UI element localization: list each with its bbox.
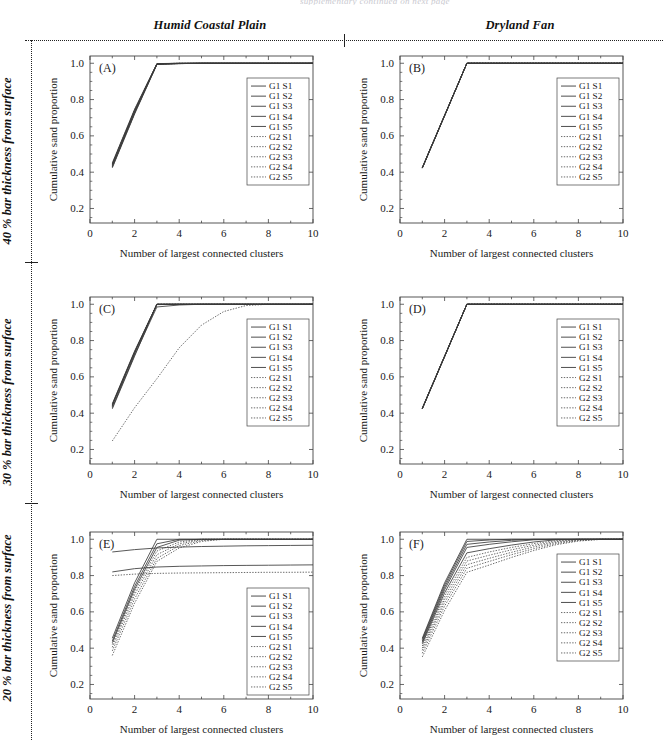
legend-label: G1 S3 <box>269 342 293 352</box>
y-axis-title: Cumulative sand proportion <box>357 77 369 201</box>
x-tick-label: 4 <box>176 227 182 239</box>
legend-label: G2 S2 <box>269 383 293 393</box>
x-tick-label: 10 <box>308 468 320 480</box>
panel-tag: (B) <box>409 61 425 75</box>
legend-label: G1 S3 <box>269 611 293 621</box>
y-axis-title: Cumulative sand proportion <box>357 553 369 677</box>
separator-tick-row-2 <box>25 503 38 504</box>
legend-label: G1 S5 <box>269 632 293 642</box>
legend-label: G1 S4 <box>579 588 603 598</box>
legend-label: G1 S1 <box>269 322 293 332</box>
panel-b: 02468100.20.40.60.81.0Number of largest … <box>356 48 631 263</box>
y-tick-label: 0.6 <box>70 129 84 141</box>
y-tick-label: 0.8 <box>70 569 84 581</box>
y-tick-label: 1.0 <box>70 533 84 545</box>
legend-label: G1 S2 <box>579 91 603 101</box>
legend-label: G2 S3 <box>579 628 603 638</box>
row-label-20-percent: 20 % bar thickness from surface <box>0 493 15 743</box>
y-tick-label: 0.8 <box>380 569 394 581</box>
legend-label: G2 S5 <box>269 413 293 423</box>
x-axis-title: Number of largest connected clusters <box>120 488 284 500</box>
y-tick-label: 1.0 <box>70 57 84 69</box>
legend-label: G2 S3 <box>269 152 293 162</box>
legend-label: G1 S5 <box>579 122 603 132</box>
legend-label: G2 S1 <box>269 642 293 652</box>
x-tick-label: 0 <box>397 227 403 239</box>
legend-label: G1 S1 <box>579 81 603 91</box>
y-tick-label: 0.4 <box>380 642 394 654</box>
x-tick-label: 10 <box>618 468 630 480</box>
panel-tag: (D) <box>409 302 426 316</box>
y-tick-label: 1.0 <box>380 533 394 545</box>
x-tick-label: 4 <box>176 703 182 715</box>
legend-label: G2 S4 <box>579 403 603 413</box>
y-tick-label: 0.2 <box>70 202 84 214</box>
y-tick-label: 1.0 <box>380 298 394 310</box>
x-tick-label: 8 <box>266 468 272 480</box>
x-tick-label: 0 <box>87 703 93 715</box>
legend-label: G1 S1 <box>269 591 293 601</box>
y-axis-title: Cumulative sand proportion <box>47 77 59 201</box>
panel-tag: (A) <box>99 61 116 75</box>
y-axis-title: Cumulative sand proportion <box>47 553 59 677</box>
figure-root: supplementary continued on next page Hum… <box>0 0 663 743</box>
legend-label: G1 S2 <box>269 332 293 342</box>
x-tick-label: 8 <box>576 703 582 715</box>
legend-label: G1 S4 <box>579 353 603 363</box>
series-line <box>112 545 313 552</box>
legend-label: G1 S2 <box>579 567 603 577</box>
x-tick-label: 8 <box>266 227 272 239</box>
y-tick-label: 0.2 <box>380 202 394 214</box>
x-tick-label: 2 <box>442 468 448 480</box>
legend-label: G1 S2 <box>269 91 293 101</box>
y-tick-label: 0.6 <box>380 129 394 141</box>
y-tick-label: 0.6 <box>380 605 394 617</box>
x-tick-label: 2 <box>132 468 138 480</box>
panel-c: 02468100.20.40.60.81.0Number of largest … <box>46 289 321 504</box>
legend-label: G2 S3 <box>269 393 293 403</box>
x-tick-label: 10 <box>308 227 320 239</box>
legend-label: G1 S4 <box>269 112 293 122</box>
panel-tag: (E) <box>99 537 114 551</box>
x-tick-label: 0 <box>87 227 93 239</box>
legend-label: G2 S5 <box>579 648 603 658</box>
x-tick-label: 4 <box>486 468 492 480</box>
legend-label: G2 S1 <box>579 373 603 383</box>
legend: G1 S1G1 S2G1 S3G1 S4G1 S5G2 S1G2 S2G2 S3… <box>247 588 309 695</box>
y-tick-label: 0.4 <box>70 642 84 654</box>
x-tick-label: 0 <box>397 468 403 480</box>
panel-d: 02468100.20.40.60.81.0Number of largest … <box>356 289 631 504</box>
legend-label: G2 S1 <box>269 373 293 383</box>
separator-rule-vertical <box>31 40 32 740</box>
legend-label: G2 S3 <box>579 393 603 403</box>
x-tick-label: 2 <box>132 703 138 715</box>
legend: G1 S1G1 S2G1 S3G1 S4G1 S5G2 S1G2 S2G2 S3… <box>557 319 619 426</box>
y-tick-label: 0.2 <box>380 443 394 455</box>
legend-label: G1 S1 <box>269 81 293 91</box>
y-tick-label: 0.4 <box>380 407 394 419</box>
x-tick-label: 6 <box>531 703 537 715</box>
legend-label: G1 S4 <box>269 353 293 363</box>
legend-label: G1 S3 <box>579 342 603 352</box>
x-tick-label: 10 <box>308 703 320 715</box>
y-tick-label: 0.6 <box>70 370 84 382</box>
y-tick-label: 0.4 <box>70 407 84 419</box>
legend-label: G1 S4 <box>269 622 293 632</box>
panel-e: 02468100.20.40.60.81.0Number of largest … <box>46 524 321 739</box>
x-tick-label: 8 <box>576 227 582 239</box>
column-heading-dryland-fan: Dryland Fan <box>400 18 640 33</box>
x-tick-label: 6 <box>221 227 227 239</box>
x-tick-label: 6 <box>221 468 227 480</box>
legend-label: G2 S5 <box>579 172 603 182</box>
x-tick-label: 6 <box>531 468 537 480</box>
y-tick-label: 1.0 <box>70 298 84 310</box>
legend-label: G2 S4 <box>269 162 293 172</box>
row-label-40-percent: 40 % bar thickness from surface <box>0 36 15 286</box>
separator-tick-row-1 <box>25 262 38 263</box>
legend-label: G2 S5 <box>579 413 603 423</box>
x-axis-title: Number of largest connected clusters <box>120 247 284 259</box>
y-tick-label: 0.6 <box>380 370 394 382</box>
x-axis-title: Number of largest connected clusters <box>430 488 594 500</box>
x-tick-label: 2 <box>132 227 138 239</box>
legend-label: G2 S1 <box>269 132 293 142</box>
